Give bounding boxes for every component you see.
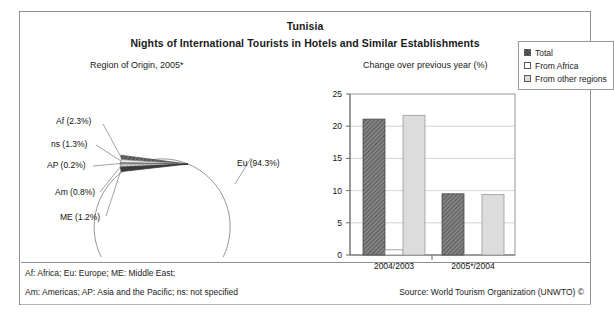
pie-label-ns: ns (1.3%) xyxy=(51,139,87,149)
y-tick-0: 0 xyxy=(337,250,342,260)
footnote-line-1: Af: Africa; Eu: Europe; ME: Middle East; xyxy=(25,268,175,278)
bar-other-2005-2004 xyxy=(482,195,504,256)
y-tick-25: 25 xyxy=(333,89,343,99)
page-title: Tunisia xyxy=(20,20,590,32)
bar-total-2005-2004 xyxy=(442,194,464,255)
bar-africa-2004-2003 xyxy=(385,250,403,255)
bar-panel-caption: Change over previous year (%) xyxy=(363,60,488,70)
legend-item-total[interactable]: Total xyxy=(524,46,607,59)
bar-chart-panel: 0 5 10 15 20 25 2 xyxy=(320,72,520,272)
pie-label-af: Af (2.3%) xyxy=(56,116,91,126)
y-tick-5: 5 xyxy=(337,218,342,228)
legend-item-from-other-regions[interactable]: From other regions xyxy=(524,72,607,85)
pie-label-ap: AP (0.2%) xyxy=(47,160,86,170)
bar-other-2004-2003 xyxy=(403,115,425,255)
y-tick-15: 15 xyxy=(333,153,343,163)
legend-swatch-from-other-regions-icon xyxy=(524,75,531,82)
legend-item-from-africa[interactable]: From Africa xyxy=(524,59,607,72)
legend-label-from-other-regions: From other regions xyxy=(535,74,607,84)
legend-swatch-from-africa-icon xyxy=(524,62,531,69)
bar-total-2004-2003 xyxy=(363,119,385,255)
footer-divider xyxy=(21,262,591,263)
source-attribution: Source: World Tourism Organization (UNWT… xyxy=(399,287,584,297)
y-tick-10: 10 xyxy=(333,186,343,196)
footnote-line-2: Am: Americas; AP: Asia and the Pacific; … xyxy=(25,287,238,297)
legend-label-from-africa: From Africa xyxy=(535,61,578,71)
pie-label-me: ME (1.2%) xyxy=(60,212,100,222)
y-axis: 0 5 10 15 20 25 xyxy=(333,89,350,260)
pie-chart-panel: Af (2.3%) ns (1.3%) AP (0.2%) Am (0.8%) … xyxy=(20,72,320,252)
legend-swatch-total-icon xyxy=(524,49,531,56)
chart-figure-frame: Tunisia Nights of International Tourists… xyxy=(19,11,591,305)
bar-chart-svg: 0 5 10 15 20 25 2 xyxy=(320,72,520,272)
pie-panel-caption: Region of Origin, 2005* xyxy=(90,60,184,70)
pie-label-am: Am (0.8%) xyxy=(55,187,95,197)
y-tick-20: 20 xyxy=(333,121,343,131)
footer-divider-lower xyxy=(21,304,591,305)
pie-label-eu: Eu (94.3%) xyxy=(237,158,280,168)
legend-label-total: Total xyxy=(535,48,553,58)
chart-legend: Total From Africa From other regions xyxy=(518,41,614,90)
page-subtitle: Nights of International Tourists in Hote… xyxy=(20,37,590,49)
